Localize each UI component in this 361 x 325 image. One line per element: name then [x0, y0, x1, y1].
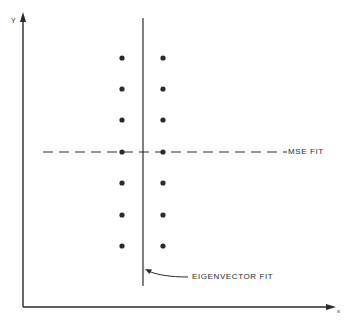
data-point — [119, 55, 124, 60]
data-point — [119, 149, 124, 154]
data-point — [119, 86, 124, 91]
x-axis-label: X — [337, 308, 341, 314]
x-axis — [23, 304, 336, 310]
eigenvector-callout-arrow — [145, 269, 188, 277]
data-point — [160, 149, 165, 154]
data-point — [119, 212, 124, 217]
data-point — [160, 243, 165, 248]
data-point — [160, 117, 165, 122]
mse-fit-label: MSE FIT — [288, 148, 324, 156]
diagram-canvas — [0, 0, 361, 325]
eigenvector-fit-label: EIGENVECTOR FIT — [192, 273, 273, 281]
callout-arrowhead-icon — [145, 269, 152, 274]
x-axis-arrow-icon — [326, 304, 336, 310]
y-axis-arrow-icon — [20, 12, 26, 22]
data-point — [160, 212, 165, 217]
data-point — [119, 180, 124, 185]
y-axis-label: Y — [11, 17, 16, 24]
y-axis — [20, 12, 26, 307]
data-point — [119, 117, 124, 122]
data-point — [119, 243, 124, 248]
data-point — [160, 86, 165, 91]
data-point — [160, 55, 165, 60]
data-point — [160, 180, 165, 185]
